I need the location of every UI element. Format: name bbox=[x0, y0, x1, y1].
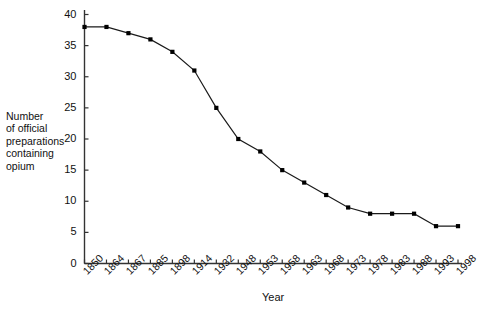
data-point-marker bbox=[302, 180, 306, 184]
data-point-marker bbox=[258, 149, 262, 153]
y-tick-label: 20 bbox=[51, 133, 77, 144]
y-tick-label: 35 bbox=[51, 40, 77, 51]
data-point-markers bbox=[82, 25, 460, 228]
data-point-marker bbox=[104, 25, 108, 29]
y-tick-label: 10 bbox=[51, 195, 77, 206]
data-point-marker bbox=[390, 212, 394, 216]
y-tick-label: 15 bbox=[51, 164, 77, 175]
data-point-marker bbox=[170, 50, 174, 54]
y-tick-label: 5 bbox=[51, 226, 77, 237]
data-point-marker bbox=[412, 212, 416, 216]
data-point-marker bbox=[148, 37, 152, 41]
data-line-series bbox=[85, 27, 459, 226]
data-point-marker bbox=[236, 137, 240, 141]
y-tick-label: 30 bbox=[51, 71, 77, 82]
data-point-marker bbox=[434, 224, 438, 228]
data-point-marker bbox=[346, 205, 350, 209]
y-tick-label: 25 bbox=[51, 102, 77, 113]
data-point-marker bbox=[324, 193, 328, 197]
data-point-marker bbox=[456, 224, 460, 228]
data-point-marker bbox=[214, 106, 218, 110]
chart-figure: Number of official preparations containi… bbox=[0, 0, 479, 309]
y-tick-label: 0 bbox=[51, 258, 77, 269]
y-tick-label: 40 bbox=[51, 9, 77, 20]
x-axis-label: Year bbox=[262, 291, 284, 303]
data-point-marker bbox=[126, 31, 130, 35]
data-point-marker bbox=[280, 168, 284, 172]
data-point-marker bbox=[192, 68, 196, 72]
data-point-marker bbox=[82, 25, 86, 29]
data-point-marker bbox=[368, 212, 372, 216]
